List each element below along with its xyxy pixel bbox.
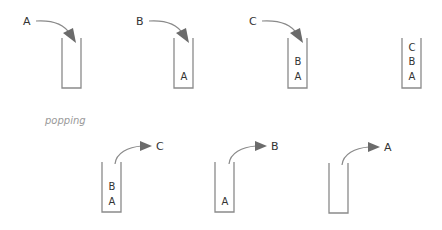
- arrow-head-icon: [63, 28, 76, 43]
- stack-item: A: [109, 196, 116, 207]
- push-step-1: A: [23, 15, 81, 88]
- push-step-3: C B A: [249, 15, 307, 88]
- pop-step-2: A B: [215, 140, 279, 212]
- stack-item: C: [409, 42, 416, 53]
- arrow-head-icon: [368, 142, 380, 152]
- section-caption: popping: [44, 115, 86, 126]
- arrow-head-icon: [290, 28, 303, 43]
- push-arrow: [262, 21, 297, 34]
- pop-arrow: [115, 146, 142, 164]
- outgoing-item-label: C: [156, 140, 164, 153]
- push-step-4: C B A: [402, 38, 421, 88]
- stack-container: [329, 163, 348, 213]
- stack-item: B: [409, 56, 416, 67]
- arrow-head-icon: [140, 141, 152, 151]
- push-arrow: [36, 21, 70, 34]
- push-step-2: B A: [136, 15, 193, 88]
- arrow-head-icon: [176, 28, 189, 43]
- pop-step-1: B A C: [102, 140, 164, 212]
- pop-arrow: [229, 146, 256, 164]
- stack-item: A: [295, 71, 302, 82]
- pop-step-3: A: [329, 141, 392, 213]
- outgoing-item-label: A: [384, 141, 392, 154]
- arrow-head-icon: [255, 141, 267, 151]
- stack-item: A: [222, 196, 229, 207]
- stack-diagram: A B A C B A C B A popping B A C: [0, 0, 442, 230]
- push-arrow: [149, 21, 183, 34]
- stack-item: A: [181, 71, 188, 82]
- stack-item: A: [409, 71, 416, 82]
- stack-container: [62, 38, 81, 88]
- stack-item: B: [109, 181, 116, 192]
- incoming-item-label: A: [23, 15, 31, 28]
- incoming-item-label: C: [249, 15, 257, 28]
- stack-item: B: [295, 56, 302, 67]
- incoming-item-label: B: [136, 15, 144, 28]
- pop-arrow: [342, 147, 369, 165]
- outgoing-item-label: B: [271, 140, 279, 153]
